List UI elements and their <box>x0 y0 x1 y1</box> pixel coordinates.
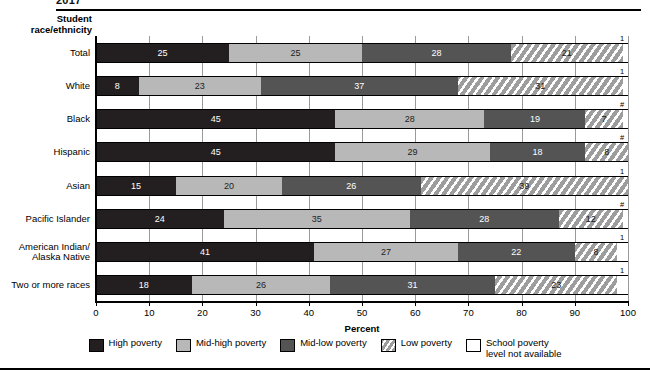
x-axis-tick <box>149 301 150 306</box>
bar-segment-low: 8 <box>585 143 628 161</box>
bar-segment-low: 31 <box>458 77 623 95</box>
bar-segment-value: 8 <box>593 247 600 257</box>
bar-segment-midhigh: 25 <box>229 44 362 62</box>
x-axis-tick-label: 40 <box>289 307 329 318</box>
x-axis-tick <box>256 301 257 306</box>
bar-row: Hispanic4529188# <box>96 142 628 162</box>
bar-segment-value: 31 <box>534 81 546 91</box>
bar-segment-low: 39 <box>421 177 628 195</box>
bar-row: White82337311 <box>96 76 628 96</box>
bar-row-label: White <box>4 81 90 91</box>
row-endnote-marker: 1 <box>620 234 624 242</box>
bar-segment-midlow: 22 <box>458 243 575 261</box>
y-axis-header: Student race/ethnicity <box>8 13 92 35</box>
x-axis-tick-label: 20 <box>182 307 222 318</box>
x-axis-tick <box>575 301 576 306</box>
stacked-bar: 15202639 <box>96 176 628 196</box>
bar-segment-value: 21 <box>561 48 573 58</box>
bar-segment-midhigh: 26 <box>192 276 330 294</box>
bar-segment-value: 41 <box>199 247 211 257</box>
bar-segment-midhigh: 27 <box>314 243 458 261</box>
bar-segment-low: 8 <box>575 243 618 261</box>
bar-segment-na <box>617 276 628 294</box>
bar-segment-midlow: 28 <box>362 44 511 62</box>
bar-segment-value: 25 <box>156 48 168 58</box>
bottom-rule <box>0 368 650 370</box>
bar-segment-value: 8 <box>603 147 610 157</box>
bar-segment-high: 41 <box>96 243 314 261</box>
bar-segment-value: 7 <box>601 114 608 124</box>
x-axis-tick-label: 80 <box>502 307 542 318</box>
bar-segment-low: 21 <box>511 44 623 62</box>
bar-segment-value: 28 <box>430 48 442 58</box>
bar-row-label: Black <box>4 114 90 124</box>
stacked-bar: 24352812 <box>96 209 628 229</box>
x-axis-tick <box>96 301 97 306</box>
legend-item-low: Low poverty <box>381 338 452 352</box>
bar-segment-high: 25 <box>96 44 229 62</box>
stacked-bar: 25252821 <box>96 43 628 63</box>
bar-row: Total252528211 <box>96 43 628 63</box>
chart-legend: High povertyMid-high povertyMid-low pove… <box>0 338 650 359</box>
bar-segment-midhigh: 35 <box>224 210 410 228</box>
stacked-bar: 4528197 <box>96 109 628 129</box>
plot-area: Total252528211White82337311Black4528197#… <box>96 36 628 302</box>
x-axis-tick <box>468 301 469 306</box>
bar-segment-value: 23 <box>194 81 206 91</box>
stacked-bar: 4127228 <box>96 242 628 262</box>
bar-segment-high: 15 <box>96 177 176 195</box>
bar-segment-value: 8 <box>114 81 121 91</box>
stacked-bar: 4529188 <box>96 142 628 162</box>
bar-segment-value: 12 <box>585 214 597 224</box>
legend-swatch-high <box>89 339 104 352</box>
legend-swatch-midlow <box>280 339 295 352</box>
bar-segment-high: 8 <box>96 77 139 95</box>
bar-segment-low: 12 <box>559 210 623 228</box>
legend-label-na: School poverty level not available <box>486 338 562 359</box>
bar-segment-na <box>623 44 628 62</box>
legend-item-midlow: Mid-low poverty <box>280 338 367 352</box>
bar-row-label: Asian <box>4 181 90 191</box>
x-axis-label: Percent <box>96 323 628 334</box>
x-axis-tick-label: 70 <box>448 307 488 318</box>
bar-segment-value: 29 <box>407 147 419 157</box>
x-axis-tick-label: 10 <box>129 307 169 318</box>
x-axis-tick <box>309 301 310 306</box>
bar-segment-midlow: 28 <box>410 210 559 228</box>
bar-segment-value: 27 <box>380 247 392 257</box>
legend-item-high: High poverty <box>89 338 162 352</box>
bar-segment-value: 39 <box>518 181 530 191</box>
gridline <box>628 36 629 302</box>
legend-label-low: Low poverty <box>401 338 452 349</box>
bar-row: Black4528197# <box>96 109 628 129</box>
row-endnote-marker: # <box>620 201 624 209</box>
bar-segment-value: 28 <box>404 114 416 124</box>
bar-segment-high: 24 <box>96 210 224 228</box>
x-axis-tick-label: 50 <box>342 307 382 318</box>
row-endnote-marker: 1 <box>620 68 624 76</box>
legend-label-high: High poverty <box>109 338 162 349</box>
x-axis-tick <box>415 301 416 306</box>
bar-segment-na <box>623 77 628 95</box>
x-axis-tick <box>628 301 629 306</box>
bar-segment-value: 18 <box>138 280 150 290</box>
bar-segment-value: 25 <box>289 48 301 58</box>
bar-segment-na <box>623 210 628 228</box>
x-axis-tick-label: 90 <box>555 307 595 318</box>
bar-segment-midhigh: 28 <box>335 110 484 128</box>
bar-segment-value: 28 <box>478 214 490 224</box>
x-axis-tick-label: 0 <box>76 307 116 318</box>
bar-segment-value: 45 <box>210 147 222 157</box>
x-axis-tick <box>522 301 523 306</box>
bar-segment-midlow: 31 <box>330 276 495 294</box>
bar-row-label: Two or more races <box>4 280 90 290</box>
bar-segment-value: 35 <box>311 214 323 224</box>
bar-segment-midhigh: 23 <box>139 77 261 95</box>
bar-segment-midhigh: 20 <box>176 177 282 195</box>
bar-row-label: Pacific Islander <box>4 214 90 224</box>
row-endnote-marker: # <box>620 134 624 142</box>
bar-row: Asian152026391 <box>96 176 628 196</box>
x-axis-tick <box>202 301 203 306</box>
bar-segment-value: 31 <box>407 280 419 290</box>
legend-item-midhigh: Mid-high poverty <box>176 338 266 352</box>
